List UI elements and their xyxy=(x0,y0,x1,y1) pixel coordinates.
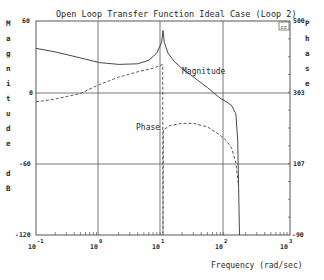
phase-curve xyxy=(36,65,239,236)
right-tick-303: 303 xyxy=(293,89,305,97)
axis-label-char: P xyxy=(305,19,310,28)
axis-label-char: e xyxy=(6,139,11,148)
x-tick-base-3: 10 xyxy=(215,243,223,251)
x-tick-exp-0: -1 xyxy=(37,238,44,244)
axis-label-char: u xyxy=(6,109,11,118)
right-tick-500: 500 xyxy=(293,17,305,25)
chart-title: Open Loop Transfer Function Ideal Case (… xyxy=(56,9,297,19)
x-tick-exp-3: 2 xyxy=(224,238,227,244)
axis-label-char: n xyxy=(6,64,11,73)
x-tick-base-0: 10 xyxy=(28,243,36,251)
axis-label-char: B xyxy=(6,184,11,193)
right-tick-107: 107 xyxy=(293,160,305,168)
left-tick-neg60: -60 xyxy=(19,160,31,168)
x-tick-base-4: 10 xyxy=(280,243,288,251)
left-tick-neg120: -120 xyxy=(15,231,31,239)
axis-label-char: M xyxy=(6,19,11,28)
x-tick-labels: 10 -1 10 0 10 1 10 2 10 3 xyxy=(28,238,292,251)
right-tick-neg90: -90 xyxy=(292,231,304,239)
x-tick-exp-4: 3 xyxy=(289,238,292,244)
left-tick-0: 0 xyxy=(29,89,33,97)
x-axis-label: Frequency (rad/sec) xyxy=(211,261,303,270)
phase-annotation: Phase xyxy=(136,123,160,132)
y-axis-label-left: MagnitudedB xyxy=(6,19,11,193)
x-tick-exp-2: 1 xyxy=(161,238,165,244)
phase-series xyxy=(36,65,239,236)
axis-label-char: i xyxy=(6,79,11,88)
x-tick-base-1: 10 xyxy=(90,243,98,251)
vertical-gridlines xyxy=(98,21,223,235)
axis-label-char: a xyxy=(6,34,11,43)
bode-plot: Open Loop Transfer Function Ideal Case (… xyxy=(0,0,324,280)
axis-label-char: d xyxy=(6,169,11,178)
axis-label-char: d xyxy=(6,124,11,133)
axis-label-char: e xyxy=(305,79,310,88)
axis-label-char: h xyxy=(305,34,310,43)
y-axis-label-right: Phase xyxy=(305,19,310,88)
magnitude-curve xyxy=(36,31,240,236)
magnitude-series xyxy=(36,31,240,236)
axis-label-char: s xyxy=(305,64,310,73)
axis-label-char: a xyxy=(305,49,310,58)
magnitude-annotation: Magnitude xyxy=(182,67,226,76)
left-tick-60: 60 xyxy=(22,17,30,25)
x-tick-base-2: 10 xyxy=(152,243,160,251)
axis-label-char: t xyxy=(6,94,11,103)
x-tick-exp-1: 0 xyxy=(99,238,102,244)
axis-label-char: g xyxy=(6,49,11,58)
corner-badge: cc xyxy=(281,24,288,30)
